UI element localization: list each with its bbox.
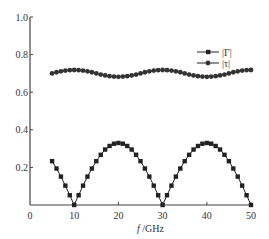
series-layer [50, 68, 254, 208]
circle-marker [116, 74, 121, 79]
circle-marker [94, 71, 99, 76]
circle-marker [227, 71, 232, 76]
legend-circle-marker-icon [206, 61, 211, 66]
circle-marker [120, 74, 125, 79]
square-marker [134, 153, 138, 157]
square-marker [68, 193, 72, 197]
circle-marker [98, 72, 103, 77]
square-marker [138, 159, 142, 163]
y-tick-label: 1.0 [16, 12, 29, 23]
square-marker [129, 147, 133, 151]
y-tick-label: 0.8 [16, 49, 29, 60]
circle-marker [244, 68, 249, 73]
square-marker [209, 142, 213, 146]
square-marker [231, 166, 235, 170]
circle-marker [218, 73, 223, 78]
x-tick-label: 50 [246, 210, 256, 221]
circle-marker [187, 72, 192, 77]
circle-marker [76, 68, 81, 73]
x-axis-title: f /GHz [137, 223, 165, 234]
square-marker [63, 183, 67, 187]
square-marker [222, 153, 226, 157]
square-marker [156, 193, 160, 197]
square-marker [94, 159, 98, 163]
square-marker [76, 193, 80, 197]
square-marker [125, 144, 129, 148]
legend: |Γ||τ| [197, 47, 232, 69]
square-marker [121, 142, 125, 146]
circle-marker [165, 68, 170, 73]
square-marker [116, 141, 120, 145]
x-tick-label: 20 [113, 210, 123, 221]
legend-item-tau: |τ| [197, 58, 230, 69]
circle-marker [112, 74, 117, 79]
square-marker [103, 147, 107, 151]
circle-marker [249, 68, 254, 73]
legend-item-gamma: |Γ| [197, 47, 232, 58]
square-marker [59, 174, 63, 178]
square-marker [152, 183, 156, 187]
circle-marker [72, 68, 77, 73]
circle-marker [63, 68, 68, 73]
square-marker [196, 144, 200, 148]
y-tick-label: 0.2 [16, 162, 29, 173]
square-marker [200, 142, 204, 146]
square-marker [240, 183, 244, 187]
circle-marker [182, 71, 187, 76]
square-marker [90, 166, 94, 170]
square-marker [160, 203, 164, 207]
circle-marker [235, 69, 240, 74]
circle-marker [231, 70, 236, 75]
circle-marker [156, 68, 161, 73]
x-tick-label: 10 [69, 210, 79, 221]
series-tau [50, 68, 254, 80]
x-tick-label: 0 [28, 210, 33, 221]
square-marker [236, 174, 240, 178]
circle-marker [134, 72, 139, 77]
square-marker [227, 159, 231, 163]
circle-marker [89, 70, 94, 75]
circle-marker [222, 72, 227, 77]
legend-square-marker-icon [206, 50, 210, 54]
square-marker [112, 142, 116, 146]
x-tick-label: 40 [202, 210, 212, 221]
legend-label: |τ| [222, 58, 230, 69]
square-marker [50, 159, 54, 163]
square-marker [147, 174, 151, 178]
series-gamma [50, 141, 253, 207]
axes: 0.20.40.60.81.001020304050f /GHz [16, 12, 257, 235]
legend-label: |Γ| [222, 47, 232, 58]
circle-marker [129, 73, 134, 78]
circle-marker [204, 74, 209, 79]
x-tick-label: 30 [158, 210, 168, 221]
square-marker [143, 166, 147, 170]
circle-marker [85, 69, 90, 74]
circle-marker [107, 74, 112, 79]
circle-marker [151, 68, 156, 73]
series-line [52, 143, 251, 205]
circle-marker [81, 68, 86, 73]
square-marker [72, 203, 76, 207]
circle-marker [213, 74, 218, 79]
circle-marker [196, 74, 201, 79]
square-marker [85, 174, 89, 178]
square-marker [54, 166, 58, 170]
y-tick-label: 0.4 [16, 124, 29, 135]
square-marker [99, 153, 103, 157]
circle-marker [209, 74, 214, 79]
square-marker [107, 144, 111, 148]
square-marker [213, 144, 217, 148]
circle-marker [50, 71, 55, 76]
circle-marker [173, 69, 178, 74]
square-marker [165, 193, 169, 197]
square-marker [205, 141, 209, 145]
chart-canvas: 0.20.40.60.81.001020304050f /GHz |Γ||τ| [0, 0, 269, 239]
circle-marker [59, 69, 64, 74]
square-marker [169, 183, 173, 187]
circle-marker [200, 74, 205, 79]
square-marker [183, 159, 187, 163]
square-marker [191, 147, 195, 151]
square-marker [174, 174, 178, 178]
circle-marker [169, 68, 174, 73]
circle-marker [138, 71, 143, 76]
